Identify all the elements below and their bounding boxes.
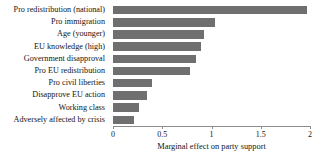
- bar-row: [113, 77, 310, 89]
- x-tick-mark: [212, 126, 213, 129]
- category-label: EU knowledge (high): [0, 41, 109, 53]
- bar: [113, 30, 204, 39]
- bar: [113, 42, 201, 51]
- category-label: Government disapproval: [0, 53, 109, 65]
- category-label: Working class: [0, 102, 109, 114]
- x-tick-mark: [113, 126, 114, 129]
- bar: [113, 6, 307, 15]
- category-label: Age (younger): [0, 28, 109, 40]
- bar: [113, 67, 190, 76]
- bar: [113, 91, 147, 100]
- bar-row: [113, 28, 310, 40]
- bar-row: [113, 89, 310, 101]
- bar: [113, 55, 196, 64]
- plot-area: [113, 4, 310, 126]
- category-label: Adversely affected by crisis: [0, 114, 109, 126]
- x-tick-mark: [261, 126, 262, 129]
- x-tick-label: 1: [210, 130, 214, 139]
- bar-row: [113, 16, 310, 28]
- x-tick-mark: [162, 126, 163, 129]
- bar-row: [113, 102, 310, 114]
- bar-row: [113, 114, 310, 126]
- bar: [113, 79, 152, 88]
- x-tick-label: 0.5: [157, 130, 167, 139]
- category-label: Pro EU redistribution: [0, 65, 109, 77]
- x-axis-title: Marginal effect on party support: [113, 142, 310, 151]
- bar-row: [113, 4, 310, 16]
- x-tick-label: 2: [308, 130, 312, 139]
- horizontal-bar-chart: Pro redistribution (national) Pro immigr…: [0, 0, 321, 158]
- category-axis-labels: Pro redistribution (national) Pro immigr…: [0, 4, 109, 126]
- bar-row: [113, 65, 310, 77]
- bar-series: [113, 4, 310, 126]
- bar: [113, 116, 134, 125]
- bar: [113, 18, 215, 27]
- category-label: Pro civil liberties: [0, 77, 109, 89]
- x-tick-mark: [310, 126, 311, 129]
- x-tick-label: 1.5: [256, 130, 266, 139]
- bar-row: [113, 41, 310, 53]
- bar-row: [113, 53, 310, 65]
- category-label: Pro immigration: [0, 16, 109, 28]
- category-label: Disapprove EU action: [0, 89, 109, 101]
- bar: [113, 103, 139, 112]
- category-label: Pro redistribution (national): [0, 4, 109, 16]
- x-tick-label: 0: [111, 130, 115, 139]
